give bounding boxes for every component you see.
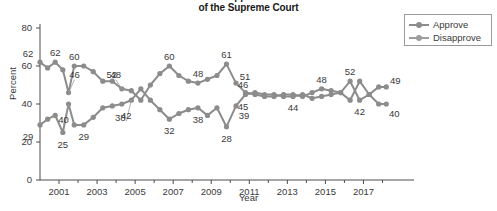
data-point-label: 40 (57, 114, 71, 125)
legend-marker-icon (409, 20, 429, 30)
data-point-label: 49 (388, 75, 402, 86)
data-point (167, 117, 172, 122)
data-point-label: 40 (387, 108, 401, 119)
data-point-label: 48 (315, 74, 329, 85)
data-point (91, 115, 96, 120)
data-point (138, 86, 143, 91)
data-point (252, 90, 257, 95)
data-point (157, 71, 162, 76)
data-point (281, 94, 286, 99)
data-point (110, 103, 115, 108)
data-point (376, 101, 381, 106)
legend-label-approve: Approve (433, 19, 468, 30)
data-point (119, 101, 124, 106)
data-point (176, 73, 181, 78)
data-point (329, 92, 334, 97)
data-point (91, 69, 96, 74)
data-point (119, 86, 124, 91)
data-point (195, 81, 200, 86)
legend-item-disapprove[interactable]: Disapprove (409, 31, 487, 44)
data-point (176, 111, 181, 116)
data-point (309, 96, 314, 101)
data-point-label: 48 (109, 69, 123, 80)
data-point (100, 105, 105, 110)
data-point (309, 90, 314, 95)
data-point-label: 32 (162, 125, 176, 136)
data-point (224, 124, 229, 129)
data-point (186, 79, 191, 84)
data-point (271, 92, 276, 97)
data-point-label: 62 (21, 48, 35, 59)
data-point-label: 46 (68, 69, 82, 80)
data-point (138, 98, 143, 103)
data-point (384, 101, 389, 106)
chart-container: Approval of the Supreme Court Percent Ye… (0, 0, 497, 211)
legend-item-approve[interactable]: Approve (409, 18, 487, 31)
data-point-label: 28 (219, 133, 233, 144)
data-point (148, 98, 153, 103)
legend-marker-icon (409, 33, 429, 43)
data-point-label: 61 (219, 49, 233, 60)
data-point (300, 92, 305, 97)
data-point (53, 60, 58, 65)
legend: Approve Disapprove (404, 14, 492, 46)
data-point (376, 84, 381, 89)
data-point-label: 42 (119, 110, 133, 121)
data-point (214, 73, 219, 78)
data-point (338, 90, 343, 95)
data-point-label: 46 (236, 79, 250, 90)
data-point (37, 122, 42, 127)
data-point (224, 62, 229, 67)
data-point (319, 86, 324, 91)
data-point (205, 113, 210, 118)
data-point-label: 62 (48, 47, 62, 58)
data-point (214, 105, 219, 110)
data-point (45, 65, 50, 70)
data-point (243, 92, 248, 97)
data-point (129, 88, 134, 93)
data-point (262, 92, 267, 97)
data-point (357, 79, 362, 84)
data-point (129, 98, 134, 103)
legend-label-disapprove: Disapprove (433, 32, 481, 43)
data-point (348, 98, 353, 103)
data-point (195, 105, 200, 110)
data-point (348, 79, 353, 84)
data-point (167, 63, 172, 68)
data-point (357, 98, 362, 103)
data-point (157, 107, 162, 112)
series-line-disapprove (40, 81, 386, 132)
data-point-label: 25 (56, 139, 70, 150)
data-point-label: 60 (67, 51, 81, 62)
data-point-label: 42 (353, 106, 367, 117)
data-point (66, 90, 71, 95)
data-point (45, 117, 50, 122)
data-point (60, 67, 65, 72)
data-point (367, 92, 372, 97)
data-point (319, 94, 324, 99)
data-point (205, 77, 210, 82)
data-point-label: 45 (236, 101, 250, 112)
data-point-label: 52 (343, 66, 357, 77)
data-point (81, 63, 86, 68)
data-point-label: 60 (162, 51, 176, 62)
data-point-label: 38 (191, 114, 205, 125)
data-point (81, 122, 86, 127)
data-point (37, 60, 42, 65)
data-point (290, 94, 295, 99)
data-point-label: 48 (191, 68, 205, 79)
data-point (186, 107, 191, 112)
data-point-label: 29 (77, 131, 91, 142)
data-point-label: 44 (286, 102, 300, 113)
data-point (72, 122, 77, 127)
data-point-label: 39 (237, 110, 251, 121)
data-point-label: 29 (21, 131, 35, 142)
data-point (148, 82, 153, 87)
data-point (60, 130, 65, 135)
